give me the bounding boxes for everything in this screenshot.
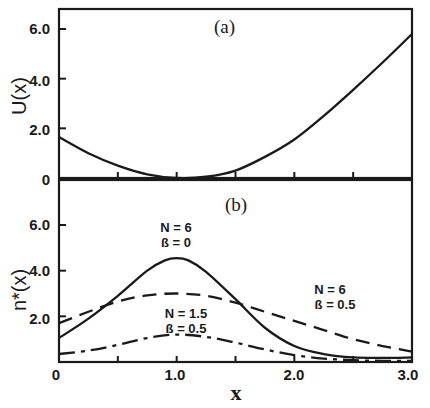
ytick-a-6: 6.0 (29, 20, 50, 37)
xtick-label-1: 1.0 (165, 366, 186, 383)
xtick-label-2: 2.0 (284, 366, 305, 383)
panel-b-ylabel: n*(x) (8, 269, 30, 311)
panel-a-label: (a) (214, 16, 235, 38)
annotation-n15-b05-line2: ß = 0.5 (166, 321, 207, 336)
x-axis-title: x (231, 380, 242, 405)
panel-b-label: (b) (225, 194, 247, 216)
ytick-b-6: 6.0 (29, 216, 50, 233)
panel-a-border (59, 9, 412, 178)
annotation-n6-b0-line2: ß = 0 (161, 235, 191, 250)
annotation-n6-b0-line1: N = 6 (160, 220, 191, 235)
panel-a-ylabel: U(x) (8, 77, 30, 115)
ytick-a-0: 0 (42, 171, 50, 188)
xtick-label-3: 3.0 (398, 366, 419, 383)
series-line-b-n-6-0 (59, 258, 412, 358)
chart-svg: (a) U(x) 6.0 4.0 2.0 0 (b) n*(x) 6.0 4.0… (0, 0, 430, 408)
series-line-b-n-6-0-5 (59, 293, 412, 351)
ytick-b-4: 4.0 (29, 262, 50, 279)
ytick-a-4: 4.0 (29, 72, 50, 89)
annotation-n6-b05-line1: N = 6 (314, 282, 345, 297)
ytick-b-2: 2.0 (29, 310, 50, 327)
annotation-n15-b05-line1: N = 1.5 (165, 306, 207, 321)
annotation-n6-b05-line2: ß = 0.5 (315, 297, 356, 312)
ytick-a-2: 2.0 (29, 121, 50, 138)
plot-frame (59, 9, 412, 362)
xtick-label-0: 0 (52, 366, 60, 383)
series-line-a-u-x (59, 34, 412, 178)
figure: (a) U(x) 6.0 4.0 2.0 0 (b) n*(x) 6.0 4.0… (0, 0, 430, 408)
